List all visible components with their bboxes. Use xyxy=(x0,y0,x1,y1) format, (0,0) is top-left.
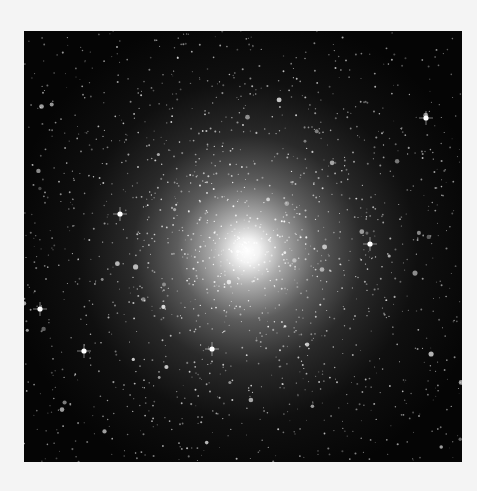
star-cluster-photo xyxy=(24,31,462,462)
starfield xyxy=(24,31,462,462)
